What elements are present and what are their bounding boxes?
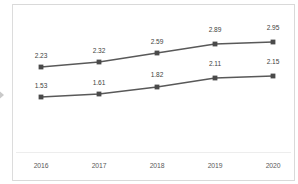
x-tick-2016: 2016 bbox=[34, 163, 49, 170]
x-tick-2018: 2018 bbox=[150, 163, 165, 170]
series-lines-svg bbox=[0, 0, 298, 184]
data-label-upper-2018: 2.59 bbox=[151, 39, 163, 46]
data-label-lower-2019: 2.11 bbox=[209, 61, 221, 68]
plot-area: 2.23 2.32 2.59 2.89 2.95 1.53 1.61 1.82 … bbox=[0, 0, 298, 184]
data-label-upper-2020: 2.95 bbox=[267, 25, 279, 32]
chart-figure: 2.23 2.32 2.59 2.89 2.95 1.53 1.61 1.82 … bbox=[0, 0, 298, 184]
data-label-upper-2019: 2.89 bbox=[209, 27, 221, 34]
data-label-upper-2017: 2.32 bbox=[93, 48, 105, 55]
x-tick-2017: 2017 bbox=[92, 163, 107, 170]
data-label-lower-2020: 2.15 bbox=[267, 59, 279, 66]
x-tick-2019: 2019 bbox=[208, 163, 223, 170]
data-label-lower-2018: 1.82 bbox=[151, 72, 163, 79]
data-label-upper-2016: 2.23 bbox=[35, 53, 47, 60]
data-label-lower-2016: 1.53 bbox=[35, 83, 47, 90]
data-label-lower-2017: 1.61 bbox=[93, 80, 105, 87]
x-tick-2020: 2020 bbox=[266, 163, 281, 170]
